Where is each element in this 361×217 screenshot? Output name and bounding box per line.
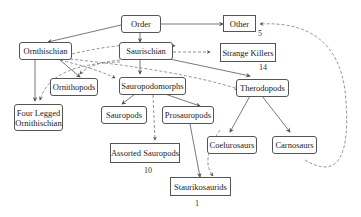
node-prosauropods: Prosauropods <box>162 106 214 124</box>
node-label: Strange Killers <box>222 48 273 58</box>
node-label: Ornithopods <box>53 82 96 92</box>
node-sauropods: Sauropods <box>101 106 147 124</box>
node-four-legged-ornithischian: Four Legged Ornithischian <box>14 104 63 131</box>
count-staurikosaurids: 1 <box>195 199 199 208</box>
node-label: Sauropods <box>106 110 142 120</box>
node-coelurosaurs: Coelurosaurs <box>207 136 257 154</box>
count-other: 5 <box>258 29 262 38</box>
node-saurischian: Saurischian <box>119 42 173 60</box>
node-order: Order <box>121 15 161 33</box>
node-carnosaurs: Carnosaurs <box>272 136 317 154</box>
node-label: Prosauropods <box>165 110 211 120</box>
node-strange-killers: Strange Killers <box>220 43 276 62</box>
node-label: Coelurosaurs <box>210 140 255 150</box>
node-label: Order <box>131 19 151 29</box>
node-label: Staurikosaurids <box>174 182 227 192</box>
node-assorted-sauropods: Assorted Sauropods <box>110 143 180 163</box>
node-label-line2: Ornithischian <box>15 118 61 128</box>
node-staurikosaurids: Staurikosaurids <box>170 177 231 196</box>
count-strange-killers: 14 <box>259 63 267 72</box>
node-label: Ornthischian <box>24 46 68 56</box>
node-label: Saurischian <box>126 46 166 56</box>
node-ornithopods: Ornithopods <box>50 78 98 96</box>
node-label: Sauropodomorphs <box>121 81 183 91</box>
node-sauropodomorphs: Sauropodomorphs <box>119 77 186 95</box>
count-assorted-sauropods: 10 <box>144 166 152 175</box>
node-ornithischian: Ornthischian <box>19 42 72 60</box>
node-label: Assorted Sauropods <box>111 148 179 158</box>
node-other: Other <box>223 15 256 32</box>
node-therodopods: Therodopods <box>236 79 289 97</box>
taxonomy-diagram: Order Other 5 Ornthischian Saurischian S… <box>0 0 361 217</box>
node-label: Other <box>230 19 249 29</box>
node-label: Carnosaurs <box>275 140 313 150</box>
node-label: Therodopods <box>240 83 285 93</box>
node-label-line1: Four Legged <box>17 108 61 118</box>
